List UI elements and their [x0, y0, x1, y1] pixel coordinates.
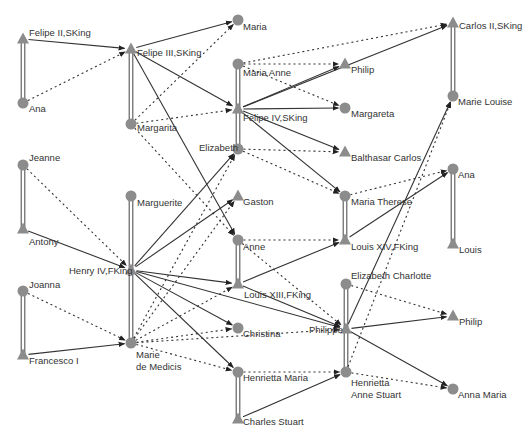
person-label: Jeanne: [29, 152, 60, 163]
marriage-edge: [236, 240, 240, 284]
person-label: Maria: [243, 21, 267, 32]
person-node-mariaanne[interactable]: [233, 59, 244, 70]
person-node-henriettamaria[interactable]: [233, 367, 244, 378]
person-label: Margarita: [137, 122, 178, 133]
person-node-felipe3[interactable]: [125, 43, 137, 54]
marriage-edges: [21, 23, 455, 419]
female-circle-icon: [448, 91, 459, 102]
person-label: Mariede Medicis: [136, 349, 182, 372]
person-node-mariedemedicis[interactable]: [126, 338, 137, 349]
marriage-edge: [451, 169, 455, 244]
person-label: Louis XIII,FKing: [244, 289, 311, 300]
person-label: Antony: [29, 236, 59, 247]
marriage-edge: [236, 372, 240, 419]
person-node-carlos2[interactable]: [447, 17, 459, 28]
person-node-marguerite[interactable]: [126, 191, 137, 202]
person-node-louis14[interactable]: [339, 234, 351, 245]
male-triangle-icon: [125, 43, 137, 54]
person-label: Elizabeth Charlotte: [351, 270, 431, 281]
female-circle-icon: [340, 191, 351, 202]
person-label: Louis: [459, 244, 482, 255]
person-label: Elizabeth: [199, 142, 238, 153]
person-labels: Felipe II,SKingAnaFelipe III,SKingMargar…: [29, 20, 522, 427]
person-node-christina[interactable]: [233, 323, 244, 334]
person-node-elizabethcharlotte[interactable]: [341, 279, 352, 290]
person-node-maria[interactable]: [233, 15, 244, 26]
male-triangle-icon: [447, 310, 459, 321]
person-node-balthasar[interactable]: [339, 146, 351, 157]
person-node-margareta[interactable]: [340, 103, 351, 114]
male-triangle-icon: [339, 234, 351, 245]
male-triangle-icon: [447, 238, 459, 249]
person-node-felipe2[interactable]: [17, 33, 29, 44]
mother-child-edge: [136, 287, 232, 340]
person-label: Margareta: [351, 108, 395, 119]
male-triangle-icon: [339, 58, 351, 69]
person-node-ana1[interactable]: [18, 98, 29, 109]
female-circle-icon: [233, 323, 244, 334]
marriage-edge: [21, 291, 25, 355]
mother-child-edge: [135, 25, 233, 121]
marriage-edge: [344, 329, 348, 372]
marriage-edge: [21, 39, 25, 103]
marriage-edge: [21, 165, 25, 229]
person-node-antony[interactable]: [17, 223, 29, 234]
person-node-philip1[interactable]: [339, 58, 351, 69]
person-node-louis[interactable]: [447, 238, 459, 249]
father-edges: [28, 22, 450, 417]
male-triangle-icon: [232, 278, 244, 289]
person-label: Christina: [243, 328, 281, 339]
person-label: Philip: [351, 64, 374, 75]
person-label: Ana: [458, 169, 476, 180]
person-node-margarita[interactable]: [126, 119, 137, 130]
male-triangle-icon: [339, 146, 351, 157]
person-label: HenriettaAnne Stuart: [351, 377, 402, 400]
person-label: Joanna: [29, 279, 61, 290]
person-label: Francesco I: [29, 355, 79, 366]
person-node-philip2[interactable]: [447, 310, 459, 321]
person-label: Louis XIV,FKing: [351, 241, 418, 252]
person-node-ana2[interactable]: [448, 164, 459, 175]
male-triangle-icon: [17, 349, 29, 360]
female-circle-icon: [126, 338, 137, 349]
person-label: Anna Maria: [458, 389, 507, 400]
person-label: Marguerite: [137, 197, 182, 208]
family-tree-diagram: Felipe II,SKingAnaFelipe III,SKingMargar…: [0, 0, 529, 443]
person-node-mariatherese[interactable]: [340, 191, 351, 202]
person-label: Marie Louise: [458, 96, 512, 107]
person-node-louis13[interactable]: [232, 278, 244, 289]
person-label: Ana: [29, 103, 47, 114]
marriage-edge: [343, 196, 347, 240]
female-circle-icon: [18, 286, 29, 297]
mother-child-edge: [136, 329, 231, 342]
female-circle-icon: [340, 103, 351, 114]
father-child-edge: [242, 112, 340, 191]
person-label: Philip: [459, 316, 482, 327]
female-circle-icon: [448, 384, 459, 395]
person-label: Maria Anne: [243, 67, 291, 78]
person-node-marielouise[interactable]: [448, 91, 459, 102]
person-label: Henrietta Maria: [243, 372, 309, 383]
person-node-anne[interactable]: [233, 235, 244, 246]
female-circle-icon: [341, 279, 352, 290]
person-label: Felipe III,SKing: [137, 47, 201, 58]
female-circle-icon: [18, 98, 29, 109]
mother-child-edge: [134, 155, 235, 338]
person-node-annamaria[interactable]: [448, 384, 459, 395]
person-node-joanna[interactable]: [18, 286, 29, 297]
person-label: Balthasar Carlos: [351, 152, 421, 163]
person-node-francesco[interactable]: [17, 349, 29, 360]
father-child-edge: [351, 317, 446, 329]
female-circle-icon: [126, 119, 137, 130]
female-circle-icon: [233, 235, 244, 246]
father-child-edge: [136, 22, 231, 48]
female-circle-icon: [18, 160, 29, 171]
person-label: Maria Therese: [351, 196, 412, 207]
person-label: Philippe: [309, 324, 343, 335]
person-node-jeanne[interactable]: [18, 160, 29, 171]
marriage-edge: [129, 196, 133, 270]
father-child-edge: [136, 52, 233, 106]
person-node-henriettaannestuart[interactable]: [341, 367, 352, 378]
marriage-edge: [451, 23, 455, 96]
mother-child-edge: [28, 293, 125, 340]
